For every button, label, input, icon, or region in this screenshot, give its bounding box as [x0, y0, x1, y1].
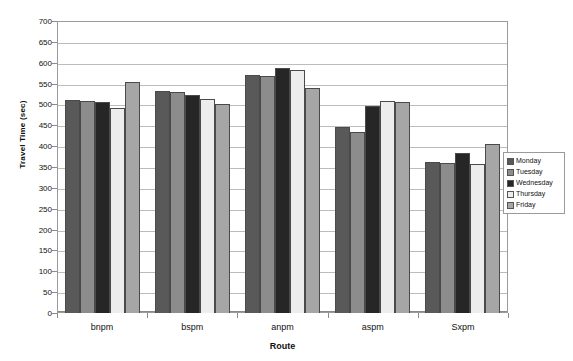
bar [470, 164, 485, 313]
bar [425, 162, 440, 313]
x-axis-tick-label: Sxpm [408, 322, 518, 332]
bar-chart: Travel Time (sec) 0501001502002503003504… [0, 0, 573, 361]
y-axis-tick-label: 500 [18, 100, 52, 109]
y-axis-tick-label: 700 [18, 17, 52, 26]
legend-label: Friday [516, 201, 535, 209]
bar-group [57, 21, 147, 313]
bar [350, 132, 365, 313]
bar [365, 106, 380, 313]
bar [380, 101, 395, 313]
y-axis-tick-label: 600 [18, 59, 52, 68]
bar [275, 68, 290, 313]
y-axis-tick-label: 350 [18, 163, 52, 172]
y-axis-tick-label: 0 [18, 309, 52, 318]
bar [485, 144, 500, 313]
bar [125, 82, 140, 313]
x-axis-tick-mark [147, 313, 148, 318]
bar [305, 88, 320, 313]
y-axis-tick-label: 450 [18, 121, 52, 130]
bar [245, 75, 260, 313]
bar [155, 91, 170, 313]
bar [455, 153, 470, 313]
bar [335, 127, 350, 313]
y-axis-tick-label: 100 [18, 267, 52, 276]
legend-label: Thursday [516, 190, 545, 198]
legend: MondayTuesdayWednesdayThursdayFriday [503, 152, 565, 214]
bar [260, 76, 275, 313]
x-axis-tick-mark [508, 313, 509, 318]
bar [395, 102, 410, 313]
bar [65, 100, 80, 313]
x-axis-tick-mark [328, 313, 329, 318]
y-axis-tick-label: 400 [18, 142, 52, 151]
x-axis-tick-mark [57, 313, 58, 318]
x-axis-title: Route [57, 341, 508, 351]
legend-item: Tuesday [507, 167, 562, 177]
bar [200, 99, 215, 313]
x-axis-tick-mark [237, 313, 238, 318]
legend-swatch-icon [507, 180, 514, 187]
bar [440, 163, 455, 313]
y-axis-tick-label: 250 [18, 205, 52, 214]
bar-group [418, 21, 508, 313]
bar [95, 102, 110, 313]
y-axis-tick-label: 200 [18, 226, 52, 235]
legend-swatch-icon [507, 158, 514, 165]
bar [110, 108, 125, 313]
legend-label: Monday [516, 157, 541, 165]
legend-item: Wednesday [507, 178, 562, 188]
bar-group [147, 21, 237, 313]
legend-item: Thursday [507, 189, 562, 199]
legend-label: Wednesday [516, 179, 553, 187]
bar [185, 95, 200, 313]
y-axis-tick-label: 650 [18, 38, 52, 47]
legend-item: Monday [507, 156, 562, 166]
legend-swatch-icon [507, 202, 514, 209]
bar [215, 104, 230, 313]
y-axis-tick-label: 550 [18, 80, 52, 89]
bar [290, 70, 305, 313]
legend-swatch-icon [507, 191, 514, 198]
legend-label: Tuesday [516, 168, 543, 176]
legend-item: Friday [507, 200, 562, 210]
bar-groups [57, 21, 508, 313]
bar [80, 101, 95, 313]
bar [170, 92, 185, 313]
legend-swatch-icon [507, 169, 514, 176]
bar-group [237, 21, 327, 313]
y-axis-tick-label: 50 [18, 288, 52, 297]
y-axis-tick-label: 150 [18, 246, 52, 255]
x-axis-tick-mark [418, 313, 419, 318]
y-axis-tick-label: 300 [18, 184, 52, 193]
y-axis-title: Travel Time (sec) [18, 75, 27, 195]
bar-group [328, 21, 418, 313]
